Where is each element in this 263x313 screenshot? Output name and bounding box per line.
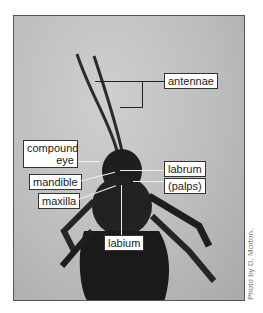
photo-credit: Photo by D. Morton.: [246, 229, 255, 300]
labrum-leader: [120, 170, 164, 171]
antennae-bracket: [142, 81, 143, 108]
palps-leader: [133, 181, 164, 182]
label-palps: (palps): [164, 178, 206, 194]
antennae-leader-line-2: [120, 107, 143, 108]
label-labrum: labrum: [164, 161, 206, 177]
labium-leader: [121, 185, 122, 235]
compound-eye-leader: [78, 161, 100, 162]
label-mandible: mandible: [29, 174, 82, 190]
label-labium: labium: [104, 235, 144, 251]
label-compound-eye: compound eye: [23, 140, 78, 168]
label-antennae: antennae: [164, 73, 218, 89]
label-maxilla: maxilla: [38, 193, 80, 209]
antennae-leader-line: [95, 81, 166, 82]
